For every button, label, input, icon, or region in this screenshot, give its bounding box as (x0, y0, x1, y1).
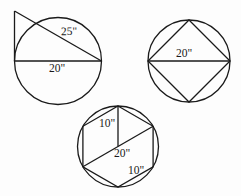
figure-1-diameter-label: 20" (49, 62, 65, 74)
figure-3-long-diagonal-label: 20" (114, 147, 130, 159)
figure-2-diagonal-label: 20" (176, 47, 192, 59)
figure-3-side-label: 10" (128, 164, 144, 176)
figure-1-hypotenuse-label: 25" (61, 25, 77, 37)
figure-3-radius-label: 10" (99, 117, 115, 129)
geometry-figure-canvas: 25" 20" 20" 10" 20" 10" (0, 0, 241, 196)
